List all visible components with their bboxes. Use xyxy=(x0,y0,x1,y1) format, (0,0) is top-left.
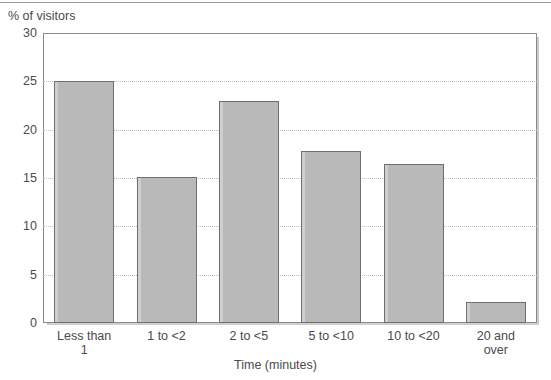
gridline xyxy=(43,130,537,131)
x-axis-tick-label: 10 to <20 xyxy=(372,329,454,343)
x-axis-tick-label: 1 to <2 xyxy=(125,329,207,343)
x-axis-tick-label-line: 1 to <2 xyxy=(125,329,207,343)
gridline xyxy=(43,275,537,276)
x-axis-title: Time (minutes) xyxy=(0,358,551,372)
x-axis-tick-label-line: 5 to <10 xyxy=(290,329,372,343)
gridline xyxy=(43,81,537,82)
bar xyxy=(54,81,114,323)
y-axis-tick-label: 0 xyxy=(3,316,37,330)
bar-chart: % of visitors 051015202530 Less than11 t… xyxy=(0,0,551,380)
bar xyxy=(301,151,361,323)
y-axis-tick-label: 25 xyxy=(3,74,37,88)
bar xyxy=(466,302,526,323)
bar-highlight xyxy=(302,152,305,322)
y-axis-tick-label: 15 xyxy=(3,171,37,185)
x-axis-tick-label: Less than1 xyxy=(43,329,125,357)
y-axis-tick-label: 5 xyxy=(3,268,37,282)
bar-highlight xyxy=(55,82,58,322)
y-axis-tick-label: 10 xyxy=(3,219,37,233)
y-axis-tick-labels: 051015202530 xyxy=(0,33,37,323)
bar-highlight xyxy=(385,165,388,323)
plot-frame-shadow-right xyxy=(537,37,539,325)
x-axis-tick-label-line: over xyxy=(455,343,537,357)
bar xyxy=(219,101,279,323)
y-axis-title: % of visitors xyxy=(8,9,75,23)
x-axis-tick-label-line: Less than xyxy=(43,329,125,343)
bar xyxy=(137,177,197,323)
y-axis-tick-label: 30 xyxy=(3,26,37,40)
x-axis-tick-label: 5 to <10 xyxy=(290,329,372,343)
bar-highlight xyxy=(220,102,223,322)
x-axis-tick-label: 2 to <5 xyxy=(208,329,290,343)
bar-highlight xyxy=(138,178,141,322)
x-axis-tick-label-line: 10 to <20 xyxy=(372,329,454,343)
x-axis-tick-label-line: 1 xyxy=(43,343,125,357)
y-axis-tick-label: 20 xyxy=(3,123,37,137)
x-axis-tick-label-line: 2 to <5 xyxy=(208,329,290,343)
bar xyxy=(384,164,444,324)
bar-highlight xyxy=(467,303,470,322)
plot-frame-shadow-bottom xyxy=(47,323,539,325)
x-axis-tick-label: 20 andover xyxy=(455,329,537,357)
gridline xyxy=(43,226,537,227)
x-axis-tick-label-line: 20 and xyxy=(455,329,537,343)
gridline xyxy=(43,178,537,179)
